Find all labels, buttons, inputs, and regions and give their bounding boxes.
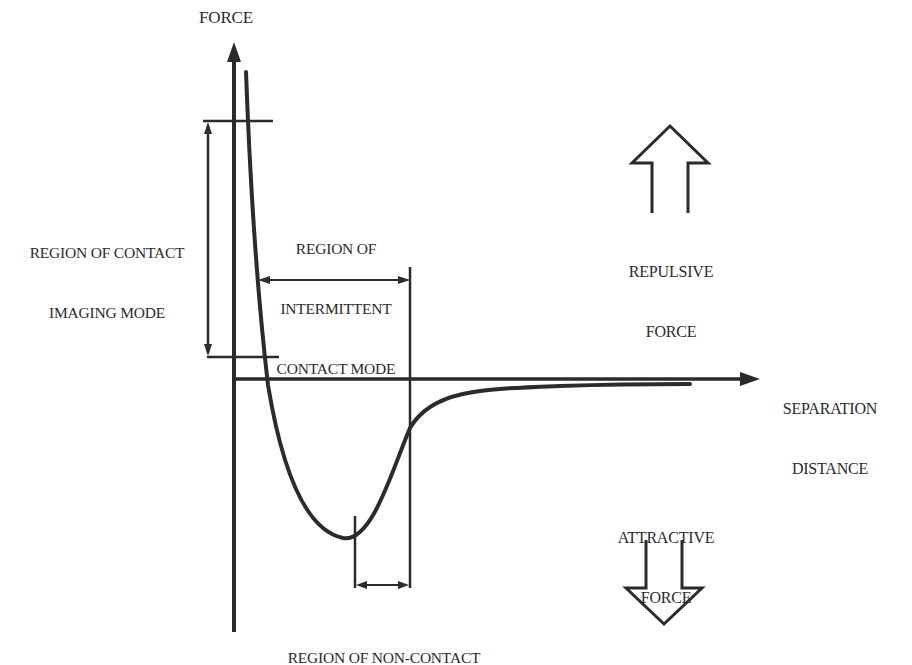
contact-region-label-line1: REGION OF CONTACT [6, 243, 208, 263]
attractive-force-label-line1: ATTRACTIVE [596, 528, 736, 548]
attractive-force-label-line2: FORCE [596, 588, 736, 608]
intermittent-region-label-line3: CONTACT MODE [256, 359, 416, 379]
x-axis-label: SEPARATION DISTANCE [762, 359, 898, 499]
non-contact-region-label: REGION OF NON-CONTACT IMAGING MODE [266, 608, 502, 665]
arrow-up-icon [204, 122, 212, 134]
y-axis-arrow-icon [227, 42, 241, 62]
arrow-right-icon [398, 581, 409, 589]
intermittent-region-label-line2: INTERMITTENT [256, 299, 416, 319]
contact-region-label-line2: IMAGING MODE [6, 303, 208, 323]
y-axis-label: FORCE [190, 8, 262, 28]
repulsive-force-label-line2: FORCE [606, 322, 736, 342]
x-axis-label-line2: DISTANCE [762, 459, 898, 479]
non-contact-region-label-line1: REGION OF NON-CONTACT [266, 648, 502, 665]
x-axis-label-line1: SEPARATION [762, 399, 898, 419]
contact-region-label: REGION OF CONTACT IMAGING MODE [6, 203, 208, 343]
arrow-left-icon [356, 581, 367, 589]
x-axis-arrow-icon [740, 372, 760, 386]
intermittent-region-label: REGION OF INTERMITTENT CONTACT MODE [256, 199, 416, 399]
arrow-down-icon [204, 344, 212, 356]
intermittent-region-label-line1: REGION OF [256, 239, 416, 259]
repulsive-arrow-up-icon [632, 126, 708, 213]
y-axis [227, 42, 241, 632]
repulsive-force-label-line1: REPULSIVE [606, 262, 736, 282]
repulsive-force-label: REPULSIVE FORCE [606, 222, 736, 362]
attractive-force-label: ATTRACTIVE FORCE [596, 488, 736, 628]
